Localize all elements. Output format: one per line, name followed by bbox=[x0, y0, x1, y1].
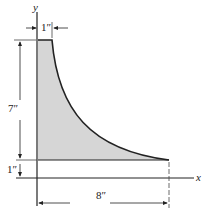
shaded-area bbox=[38, 40, 169, 160]
y-axis-label: y bbox=[33, 2, 38, 13]
x-axis-label: x bbox=[196, 172, 201, 183]
dimension-length: 8″ bbox=[96, 190, 106, 201]
dimension-height: 7″ bbox=[8, 103, 18, 114]
dimension-offset: 1″ bbox=[7, 164, 17, 175]
diagram-canvas bbox=[0, 0, 204, 218]
dimension-top-width: 1″ bbox=[41, 22, 51, 33]
